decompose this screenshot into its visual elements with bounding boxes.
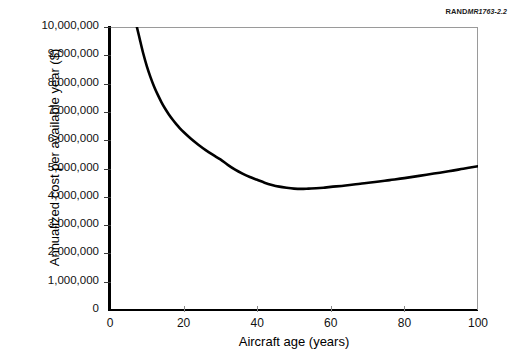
x-tick-label: 80 (398, 316, 411, 330)
y-axis-tick (104, 169, 111, 170)
rand-credit-docid: MR1763-2.2 (467, 8, 507, 15)
y-axis-tick (104, 27, 111, 28)
y-axis-tick (104, 197, 111, 198)
chart-figure: RANDMR1763-2.2 01,000,0002,000,0003,000,… (0, 0, 516, 360)
y-axis-tick (104, 225, 111, 226)
x-axis-tick (331, 306, 332, 312)
y-tick-label: 0 (93, 302, 99, 314)
y-axis-title: Annualized cost per available year ($) (47, 8, 62, 308)
y-axis-tick (104, 84, 111, 85)
x-tick-label: 20 (177, 316, 190, 330)
x-axis-tick (257, 306, 258, 312)
cost-curve-path (137, 27, 478, 189)
cost-curve (110, 27, 478, 310)
rand-credit: RANDMR1763-2.2 (445, 7, 507, 16)
x-tick-label: 0 (107, 316, 114, 330)
y-axis-tick (104, 282, 111, 283)
y-axis-tick (104, 112, 111, 113)
y-axis-tick (104, 140, 111, 141)
x-tick-label: 40 (251, 316, 264, 330)
y-axis-tick (104, 253, 111, 254)
plot-area (110, 27, 478, 310)
x-axis-title: Aircraft age (years) (110, 334, 478, 349)
y-axis-tick (104, 55, 111, 56)
x-tick-label: 60 (324, 316, 337, 330)
x-axis-tick (184, 306, 185, 312)
x-axis-tick (404, 306, 405, 312)
rand-credit-brand: RAND (445, 7, 467, 16)
x-tick-label: 100 (468, 316, 488, 330)
